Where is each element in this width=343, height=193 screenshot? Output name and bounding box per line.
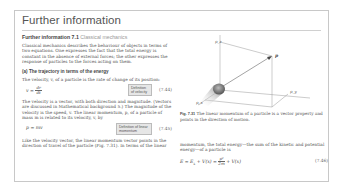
- figure-caption: Fig. 7.31 The linear momentum of a parti…: [180, 111, 328, 122]
- equation-number: (7.45): [159, 126, 172, 131]
- section-subtitle: Classical mechanics: [80, 34, 127, 40]
- equation-7-46: E = Ek + V(x) = p² 2m + V(x) (7.46): [180, 155, 328, 167]
- fraction: p² 2m: [218, 157, 224, 167]
- arrow-head-icon: [267, 56, 272, 60]
- equation-7-44: v = dr dt Definition of velocity (7.44): [22, 84, 172, 96]
- momentum-arrow: [220, 57, 270, 88]
- intro-paragraph: Classical mechanics describes the behavi…: [22, 43, 172, 65]
- energy-paragraph: momentum, the total energy—the sum of th…: [180, 142, 328, 153]
- velocity-sentence: The velocity, v, of a particle is the ra…: [22, 77, 172, 82]
- section-label: Further information 7.1: [22, 34, 79, 40]
- svg-text:p_x: p_x: [196, 100, 204, 105]
- velocity-equation: v = dr dt: [26, 86, 42, 96]
- figure-label: Fig. 7.31: [180, 112, 195, 116]
- svg-text:p_y: p_y: [290, 89, 298, 94]
- page-title: Further information: [22, 14, 121, 26]
- momentum-direction-paragraph: Like the velocity vector, the linear mom…: [22, 138, 172, 149]
- definition-of-linear-momentum-box: Definition of linear momentum: [116, 123, 152, 135]
- equation-7-45: p = mv Definition of linear momentum (7.…: [22, 123, 172, 135]
- right-column: momentum, the total energy—the sum of th…: [180, 142, 328, 167]
- equation-number: (7.46): [315, 158, 328, 163]
- left-column: Further information 7.1 Classical mechan…: [22, 34, 172, 148]
- momentum-vector-figure: p_z p p_y p_x: [190, 30, 330, 110]
- momentum-equation: p = mv: [26, 125, 43, 130]
- velocity-vector-paragraph: The velocity is a vector, with both dire…: [22, 99, 172, 121]
- section-title: Further information 7.1 Classical mechan…: [22, 34, 172, 40]
- definition-of-velocity-box: Definition of velocity: [128, 84, 152, 96]
- svg-text:p: p: [275, 53, 279, 58]
- svg-text:p_z: p_z: [215, 39, 223, 44]
- energy-equation: E = Ek + V(x) = p² 2m + V(x): [180, 157, 241, 167]
- caption-text: The linear momentum of a particle is a v…: [180, 111, 323, 122]
- subheading: (a) The trajectory in terms of the energ…: [22, 69, 172, 74]
- particle-icon: [213, 84, 225, 95]
- equation-number: (7.44): [159, 87, 172, 92]
- fraction: dr dt: [35, 86, 41, 96]
